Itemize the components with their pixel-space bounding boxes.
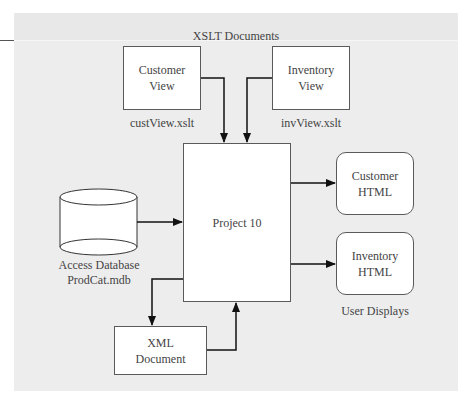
database-cylinder-icon — [60, 189, 137, 255]
customer-view-box: Customer View — [123, 46, 201, 110]
xslt-group-title: XSLT Documents — [176, 29, 296, 44]
inventory-view-line2: View — [288, 78, 335, 94]
inventory-html-line2: HTML — [352, 264, 399, 280]
customer-html-line2: HTML — [352, 184, 399, 200]
database-label-line1: Access Database — [48, 258, 150, 273]
project-box: Project 10 — [183, 143, 291, 302]
customer-html-box: Customer HTML — [336, 152, 414, 215]
user-displays-label: User Displays — [325, 304, 425, 319]
xml-document-line2: Document — [136, 351, 186, 367]
arrow-project-to-xml — [152, 279, 183, 325]
inventory-html-box: Inventory HTML — [336, 232, 414, 295]
arrow-customer-view-to-project — [200, 78, 224, 142]
arrow-xml-to-project — [206, 303, 236, 350]
customer-view-filename: custView.xslt — [112, 116, 212, 131]
database-label: Access Database ProdCat.mdb — [48, 258, 150, 288]
inventory-view-line1: Inventory — [288, 62, 335, 78]
inventory-view-filename: invView.xslt — [261, 116, 361, 131]
arrow-inventory-view-to-project — [247, 78, 272, 142]
customer-view-line2: View — [139, 78, 186, 94]
xml-document-line1: XML — [136, 335, 186, 351]
inventory-view-box: Inventory View — [272, 46, 350, 110]
customer-view-line1: Customer — [139, 62, 186, 78]
project-label: Project 10 — [213, 215, 262, 231]
database-label-line2: ProdCat.mdb — [48, 273, 150, 288]
xml-document-box: XML Document — [114, 326, 207, 375]
customer-html-line1: Customer — [352, 168, 399, 184]
inventory-html-line1: Inventory — [352, 248, 399, 264]
